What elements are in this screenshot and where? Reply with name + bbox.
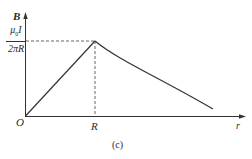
peak-value-label: μ0I 2πR [6, 24, 26, 54]
origin-label: O [16, 117, 24, 128]
y-axis-arrow-icon [23, 12, 27, 19]
decay-curve [95, 41, 213, 109]
x-axis-label: r [236, 121, 240, 131]
peak-value-numerator: μ0I [6, 24, 26, 40]
linear-rise-curve [26, 41, 96, 116]
figure-caption: (c) [112, 140, 123, 150]
x-tick-label-r: R [91, 121, 98, 132]
y-axis-label: B [13, 11, 20, 22]
plot-canvas [0, 0, 252, 159]
peak-value-denominator: 2πR [6, 43, 26, 54]
current-symbol: I [18, 24, 21, 35]
fraction-bar [6, 41, 26, 42]
x-axis-arrow-icon [239, 114, 246, 118]
b-field-vs-r-diagram: B μ0I 2πR O R r (c) [0, 0, 252, 159]
